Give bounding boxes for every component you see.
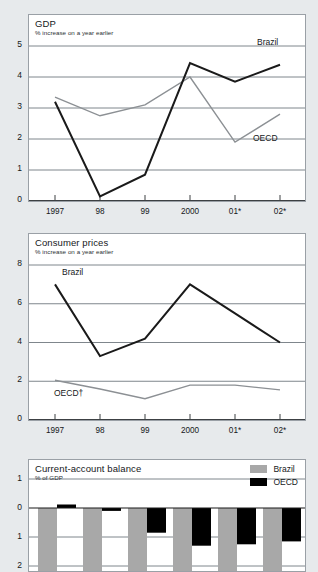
gdp-ytick-2: 2 bbox=[0, 132, 22, 142]
gdp-brazil-series-label: Brazil bbox=[257, 37, 278, 47]
cpi-brazil-line bbox=[55, 284, 280, 356]
gdp-xtick-2000: 2000 bbox=[170, 207, 210, 216]
gdp-ytick-5: 5 bbox=[0, 39, 22, 49]
cab-ytick-neg2: 2 bbox=[0, 560, 22, 570]
cpi-ytick-8: 8 bbox=[0, 258, 22, 268]
cpi-oecd-line bbox=[55, 380, 280, 398]
cab-legend-label-brazil: Brazil bbox=[273, 464, 294, 474]
cpi-xtick-2000: 2000 bbox=[170, 426, 210, 435]
cpi-ytick-0: 0 bbox=[0, 413, 22, 423]
gdp-xtick-99: 99 bbox=[125, 207, 165, 216]
gdp-oecd-series-label: OECD bbox=[253, 133, 278, 143]
oecd-swatch-icon bbox=[250, 478, 267, 486]
gdp-xtick-02: 02* bbox=[260, 207, 300, 216]
brazil-swatch-icon bbox=[250, 465, 267, 473]
cpi-xtick-99: 99 bbox=[125, 426, 165, 435]
cab-ytick-pos1: 1 bbox=[0, 473, 22, 483]
cpi-ytick-4: 4 bbox=[0, 336, 22, 346]
cpi-brazil-series-label: Brazil bbox=[62, 267, 83, 277]
cpi-gridlines bbox=[29, 265, 305, 381]
cab-legend: Brazil OECD bbox=[250, 464, 298, 490]
gdp-ytick-0: 0 bbox=[0, 194, 22, 204]
gdp-oecd-line bbox=[55, 77, 280, 142]
gdp-brazil-line bbox=[55, 63, 280, 196]
cpi-xtick-98: 98 bbox=[80, 426, 120, 435]
cpi-xtick-01: 01* bbox=[215, 426, 255, 435]
cpi-xtick-02: 02* bbox=[260, 426, 300, 435]
cpi-xtick-1997: 1997 bbox=[35, 426, 75, 435]
cab-legend-item-oecd: OECD bbox=[250, 477, 298, 487]
cab-legend-label-oecd: OECD bbox=[273, 477, 298, 487]
current-account-balance-chart-panel: Current-account balance % of GDP Brazil … bbox=[28, 459, 306, 572]
gdp-gridlines bbox=[29, 46, 305, 170]
gdp-ytick-3: 3 bbox=[0, 101, 22, 111]
gdp-xtick-98: 98 bbox=[80, 207, 120, 216]
gdp-ytick-4: 4 bbox=[0, 70, 22, 80]
cpi-ytick-6: 6 bbox=[0, 297, 22, 307]
gdp-chart-panel: GDP % increase on a year earlier Brazil … bbox=[28, 14, 306, 202]
consumer-prices-chart-panel: Consumer prices % increase on a year ear… bbox=[28, 233, 306, 421]
gdp-ytick-1: 1 bbox=[0, 163, 22, 173]
cab-ytick-neg1: 1 bbox=[0, 531, 22, 541]
cab-ytick-0: 0 bbox=[0, 502, 22, 512]
cpi-ytick-2: 2 bbox=[0, 374, 22, 384]
cpi-oecd-series-label: OECD† bbox=[54, 388, 83, 398]
gdp-xtick-01: 01* bbox=[215, 207, 255, 216]
chart-page: GDP % increase on a year earlier Brazil … bbox=[0, 0, 318, 572]
gdp-xtick-1997: 1997 bbox=[35, 207, 75, 216]
cab-legend-item-brazil: Brazil bbox=[250, 464, 298, 474]
